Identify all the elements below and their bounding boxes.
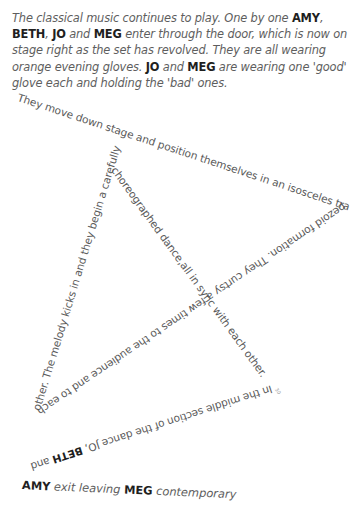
intro-text: The classical music continues to play. O… (12, 11, 292, 25)
character-beth: BETH (51, 445, 84, 466)
segment-5-prefix: In the middle section of the dance JO, (81, 383, 274, 456)
closing-middle: exit leaving (50, 479, 124, 496)
stage-direction-intro: The classical music continues to play. O… (12, 10, 352, 91)
closing-line: AMY exit leaving MEG contemporary (22, 478, 237, 501)
character-beth: BETH (12, 27, 45, 41)
character-amy: AMY (22, 478, 51, 493)
page-mark: 30 (274, 387, 283, 396)
intro-text: and (66, 27, 94, 41)
shaped-text-segment-2: pezoid formation. They curtsy a few time… (35, 201, 348, 418)
segment-5-suffix: and (29, 454, 54, 472)
intro-text: , (320, 11, 323, 25)
intro-text: and (159, 60, 187, 74)
character-meg: MEG (94, 27, 122, 41)
character-jo: JO (146, 60, 160, 74)
closing-end: contemporary (152, 484, 236, 502)
character-meg: MEG (124, 482, 153, 497)
character-meg: MEG (187, 60, 215, 74)
shaped-text-segment-1: They move down stage and position themse… (16, 91, 346, 210)
character-amy: AMY (292, 11, 320, 25)
character-jo: JO (52, 27, 66, 41)
